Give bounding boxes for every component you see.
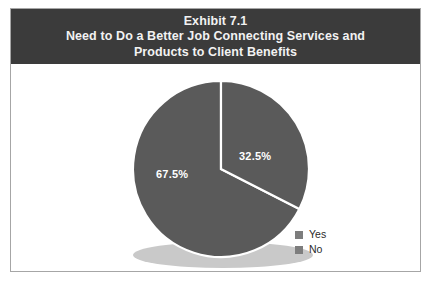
exhibit-title-banner: Exhibit 7.1 Need to Do a Better Job Conn… — [11, 9, 420, 64]
chart-legend: Yes No — [295, 227, 365, 257]
exhibit-title-line-2: Need to Do a Better Job Connecting Servi… — [66, 29, 365, 45]
pie-chart-plot-area: 32.5% 67.5% Yes No — [11, 64, 420, 271]
legend-item-yes[interactable]: Yes — [295, 227, 365, 242]
legend-item-no[interactable]: No — [295, 242, 365, 257]
legend-swatch-no — [295, 246, 303, 254]
legend-label-no: No — [309, 244, 322, 255]
exhibit-frame: Exhibit 7.1 Need to Do a Better Job Conn… — [10, 8, 421, 272]
exhibit-title-line-1: Exhibit 7.1 — [184, 14, 248, 30]
pie-data-label-no: 67.5% — [156, 168, 188, 180]
pie-chart — [121, 76, 311, 262]
legend-swatch-yes — [295, 231, 303, 239]
exhibit-title-line-3: Products to Client Benefits — [134, 45, 297, 61]
legend-label-yes: Yes — [309, 229, 326, 240]
pie-data-label-yes: 32.5% — [239, 150, 271, 162]
